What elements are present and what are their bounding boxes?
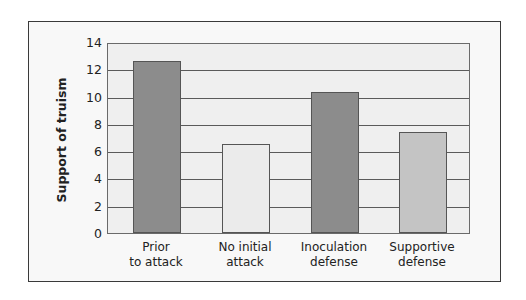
y-tick-label: 8	[74, 118, 102, 132]
bar	[222, 144, 270, 233]
y-tick-label: 2	[74, 200, 102, 214]
x-tick-label: Supportivedefense	[367, 240, 477, 270]
x-tick-label-line: Supportive	[367, 240, 477, 255]
y-tick-label: 4	[74, 172, 102, 186]
y-axis-ticks: 02468101214	[72, 0, 102, 300]
y-tick-label: 14	[74, 36, 102, 50]
plot-area	[107, 43, 470, 234]
bar	[133, 61, 181, 233]
y-tick-label: 10	[74, 91, 102, 105]
y-tick-label: 12	[74, 63, 102, 77]
x-tick-label-line: defense	[367, 255, 477, 270]
bar	[399, 132, 447, 233]
bar	[311, 92, 359, 233]
y-tick-label: 0	[74, 227, 102, 241]
y-tick-label: 6	[74, 145, 102, 159]
y-axis-label: Support of truism	[54, 77, 69, 202]
